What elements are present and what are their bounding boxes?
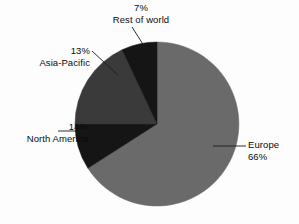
pie-chart-canvas: [0, 0, 299, 224]
slice-label-asia-pacific-name: Asia-Pacific: [10, 57, 90, 69]
slice-label-europe-percent: 66%: [248, 151, 298, 163]
pie-chart-figure: 7% Rest of world 13% Asia-Pacific 14% No…: [0, 0, 299, 224]
slice-label-asia-pacific-percent: 13%: [10, 45, 90, 57]
slice-label-north-america-name: North America: [0, 133, 88, 145]
slice-label-rest-of-world: 7% Rest of world: [95, 2, 187, 25]
slice-label-north-america-percent: 14%: [0, 121, 88, 133]
slice-label-europe: Europe 66%: [248, 139, 298, 162]
slice-label-rest-of-world-percent: 7%: [95, 2, 187, 14]
slice-label-europe-name: Europe: [248, 139, 298, 151]
slice-label-north-america: 14% North America: [0, 121, 88, 144]
slice-label-rest-of-world-name: Rest of world: [95, 14, 187, 26]
slice-label-asia-pacific: 13% Asia-Pacific: [10, 45, 90, 68]
